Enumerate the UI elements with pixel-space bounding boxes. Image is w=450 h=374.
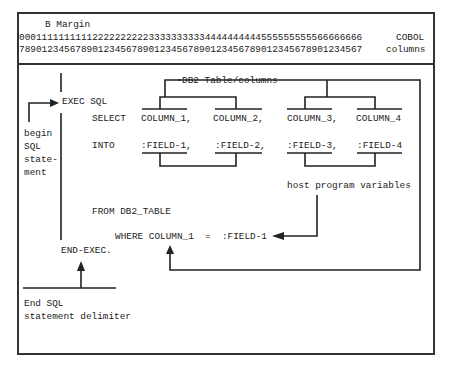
connector-lines — [0, 0, 450, 374]
end-exec-arrow-head — [77, 261, 85, 271]
host-vars-arrow-head — [272, 232, 284, 240]
column-arrow-head — [166, 245, 174, 254]
begin-arrow-head — [50, 99, 59, 107]
